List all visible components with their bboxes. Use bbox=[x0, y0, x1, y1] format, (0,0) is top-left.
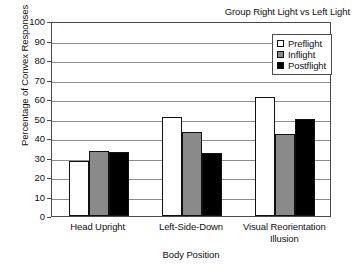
y-axis-tick-label: 40 bbox=[0, 134, 45, 144]
y-axis-tick-label: 60 bbox=[0, 95, 45, 105]
bar bbox=[275, 134, 295, 216]
y-axis-tick-mark bbox=[47, 120, 51, 121]
bar bbox=[182, 132, 202, 216]
y-axis-tick-label: 50 bbox=[0, 115, 45, 125]
legend-label: Preflight bbox=[288, 38, 322, 49]
y-axis-tick-mark bbox=[47, 81, 51, 82]
y-axis-tick-mark bbox=[47, 178, 51, 179]
bar bbox=[295, 119, 315, 216]
y-axis-tick-label: 90 bbox=[0, 37, 45, 47]
y-axis-tick-mark bbox=[47, 139, 51, 140]
legend-label: Postflight bbox=[288, 60, 326, 71]
y-axis-tick-mark bbox=[47, 42, 51, 43]
bar bbox=[69, 161, 89, 216]
y-axis-tick-label: 20 bbox=[0, 173, 45, 183]
x-axis-tick-labels: Head UprightLeft-Side-DownVisual Reorien… bbox=[51, 221, 331, 249]
y-axis-tick-label: 70 bbox=[0, 76, 45, 86]
legend-item: Preflight bbox=[277, 38, 326, 49]
x-axis-tick-label-line: Visual Reorientation bbox=[224, 221, 345, 233]
bar bbox=[202, 153, 222, 216]
legend-item: Inflight bbox=[277, 49, 326, 60]
bar-chart: Group Right Light vs Left Light Percenta… bbox=[0, 0, 354, 273]
y-axis-tick-mark bbox=[47, 159, 51, 160]
chart-title: Group Right Light vs Left Light bbox=[160, 6, 350, 17]
legend-swatch-icon bbox=[277, 40, 284, 47]
y-axis-tick-label: 80 bbox=[0, 56, 45, 66]
x-axis-title: Body Position bbox=[51, 249, 331, 260]
y-axis-tick-label: 10 bbox=[0, 193, 45, 203]
legend-item: Postflight bbox=[277, 60, 326, 71]
legend-swatch-icon bbox=[277, 62, 284, 69]
y-axis-tick-mark bbox=[47, 22, 51, 23]
y-axis-tick-label: 30 bbox=[0, 154, 45, 164]
y-axis-tick-labels: 1009080706050403020100 bbox=[0, 22, 45, 217]
bar bbox=[255, 97, 275, 216]
x-axis-tick-label-line: Illusion bbox=[224, 233, 345, 245]
bar bbox=[89, 151, 109, 216]
y-axis-tick-label: 100 bbox=[0, 17, 45, 27]
legend-swatch-icon bbox=[277, 51, 284, 58]
y-axis-tick-mark bbox=[47, 217, 51, 218]
y-axis-tick-mark bbox=[47, 61, 51, 62]
legend-label: Inflight bbox=[288, 49, 315, 60]
chart-legend: PreflightInflightPostflight bbox=[272, 34, 332, 75]
y-axis-tick-mark bbox=[47, 100, 51, 101]
bar bbox=[162, 117, 182, 216]
y-axis-tick-mark bbox=[47, 198, 51, 199]
x-axis-tick-label: Visual ReorientationIllusion bbox=[224, 221, 345, 244]
bar bbox=[109, 152, 129, 216]
